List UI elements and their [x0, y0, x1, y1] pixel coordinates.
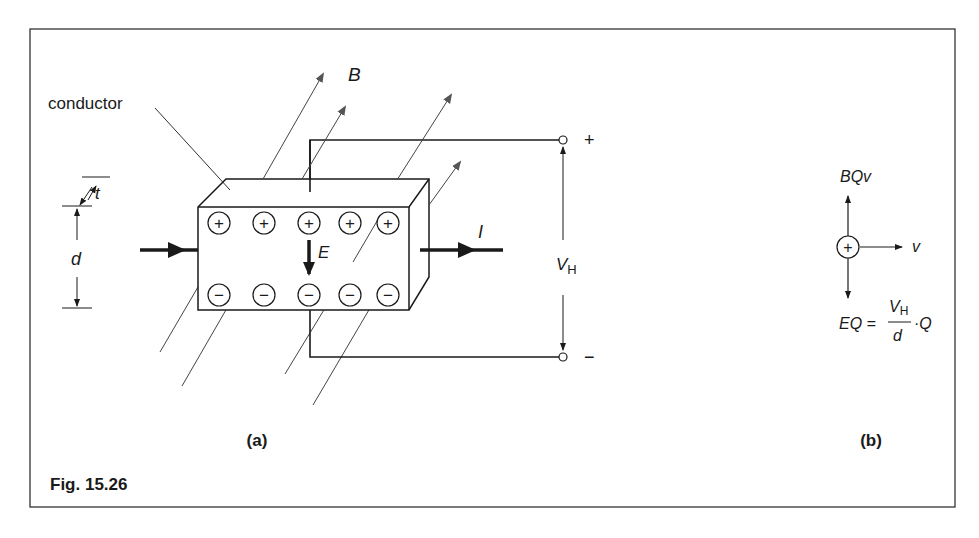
- panel-a-label: (a): [247, 431, 268, 450]
- hall-voltage-label: VH: [556, 255, 577, 277]
- figure-frame: [30, 29, 955, 507]
- panel-b: BQv + v EQ = VH d ·Q (b): [837, 168, 932, 450]
- charge-sign: +: [843, 239, 852, 256]
- efield-label: E: [318, 243, 330, 262]
- equation-rhs: ·Q: [914, 315, 932, 332]
- dimension-markers: [62, 177, 110, 308]
- field-arrow-icon: [302, 107, 345, 179]
- thickness-label: t: [95, 184, 101, 203]
- current-in-arrow-icon: [168, 242, 186, 258]
- plus-sign-icon: +: [345, 214, 355, 233]
- conductor-label: conductor: [48, 94, 123, 113]
- field-arrow-icon: [263, 74, 323, 179]
- field-arrow-icon: [397, 95, 451, 180]
- plus-terminal-label: +: [584, 130, 595, 150]
- plus-sign-icon: +: [259, 214, 269, 233]
- negative-terminal-icon: [559, 353, 567, 361]
- current-out-arrow-icon: [458, 242, 476, 258]
- equation-numerator: VH: [889, 298, 908, 318]
- minus-sign-icon: −: [259, 286, 269, 305]
- velocity-label: v: [912, 238, 921, 255]
- figure-caption: Fig. 15.26: [50, 475, 127, 494]
- minus-terminal-label: −: [584, 347, 595, 367]
- minus-sign-icon: −: [383, 286, 393, 305]
- magnetic-force-label: BQv: [840, 168, 872, 185]
- positive-terminal-icon: [559, 136, 567, 144]
- minus-sign-icon: −: [304, 286, 314, 305]
- conductor-leader-line: [155, 108, 230, 190]
- field-arrow-icon: [429, 162, 460, 205]
- equation-denominator: d: [893, 327, 903, 344]
- panel-a: + + + + + − − − − − E I B conductor: [48, 64, 595, 450]
- plus-sign-icon: +: [304, 214, 314, 233]
- panel-b-label: (b): [860, 431, 882, 450]
- minus-sign-icon: −: [214, 286, 224, 305]
- plus-sign-icon: +: [383, 214, 393, 233]
- equation-lhs: EQ =: [839, 315, 876, 332]
- minus-sign-icon: −: [345, 286, 355, 305]
- height-label: d: [71, 249, 82, 269]
- plus-sign-icon: +: [214, 214, 224, 233]
- hall-effect-figure: + + + + + − − − − − E I B conductor: [0, 0, 979, 538]
- current-label: I: [478, 222, 483, 242]
- field-label: B: [348, 64, 361, 85]
